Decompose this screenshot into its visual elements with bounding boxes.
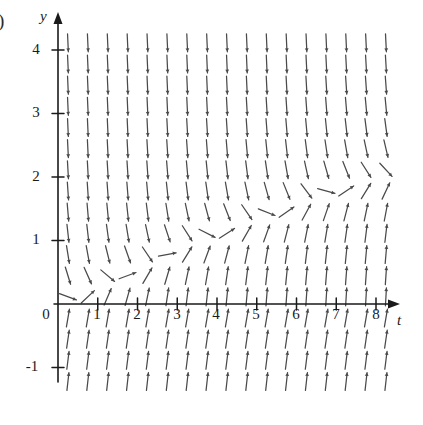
y-tick-4: 4 — [26, 41, 46, 58]
x-axis-label: t — [397, 312, 401, 329]
y-axis-label: y — [40, 8, 47, 25]
origin-label: 0 — [38, 306, 54, 323]
direction-field-plot — [0, 0, 423, 425]
y-tick-3: 3 — [26, 104, 46, 121]
x-tick-6: 6 — [287, 306, 305, 323]
x-tick-5: 5 — [247, 306, 265, 323]
x-tick-7: 7 — [327, 306, 345, 323]
y-tick-1: 1 — [26, 231, 46, 248]
x-tick-4: 4 — [207, 306, 225, 323]
x-tick-3: 3 — [168, 306, 186, 323]
direction-field-figure: ) y t 4 3 2 1 -1 0 1 2 3 4 5 6 7 8 — [0, 0, 423, 425]
x-tick-8: 8 — [367, 306, 385, 323]
y-tick-2: 2 — [26, 168, 46, 185]
x-tick-1: 1 — [88, 306, 106, 323]
y-tick-minus-1: -1 — [18, 358, 46, 375]
x-tick-2: 2 — [128, 306, 146, 323]
